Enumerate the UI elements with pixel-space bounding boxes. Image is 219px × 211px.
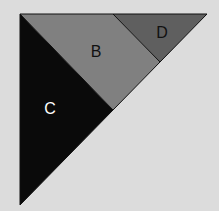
label-c: C (44, 100, 56, 117)
triangle-diagram: C B D (0, 0, 219, 211)
label-d: D (156, 24, 168, 41)
label-b: B (91, 43, 102, 60)
